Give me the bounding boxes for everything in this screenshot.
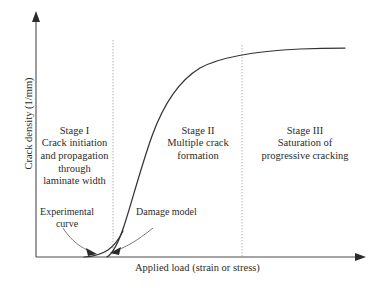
stage-2-block: Stage II Multiple crack formation xyxy=(155,124,241,163)
stage-1-title: Stage I xyxy=(36,124,113,137)
experimental-curve-callout-line2: curve xyxy=(22,218,112,230)
x-axis-arrow-icon xyxy=(355,253,366,261)
experimental-curve-leader xyxy=(63,228,89,251)
damage-model-callout-line1: Damage model xyxy=(136,206,226,218)
experimental-curve-callout: Experimental curve xyxy=(22,206,112,230)
y-axis-arrow-icon xyxy=(32,11,40,22)
damage-model-callout: Damage model xyxy=(136,206,226,218)
stage-3-title: Stage III xyxy=(245,124,365,137)
damage-model-leader xyxy=(120,228,153,249)
y-axis-label: Crack density (1/mm) xyxy=(23,44,34,204)
experimental-curve-callout-line1: Experimental xyxy=(22,206,112,218)
stage-1-block: Stage I Crack initiation and propagation… xyxy=(36,124,113,188)
damage-model-leader-arrow-icon xyxy=(110,247,121,255)
stage-1-description: Crack initiation and propagation through… xyxy=(36,137,113,188)
stage-3-description: Saturation of progressive cracking xyxy=(245,137,365,163)
stage-2-title: Stage II xyxy=(155,124,241,137)
x-axis-label: Applied load (strain or stress) xyxy=(135,262,260,273)
stage-3-block: Stage III Saturation of progressive crac… xyxy=(245,124,365,163)
crack-density-diagram: Crack density (1/mm) Applied load (strai… xyxy=(0,0,378,292)
stage-2-description: Multiple crack formation xyxy=(155,137,241,163)
